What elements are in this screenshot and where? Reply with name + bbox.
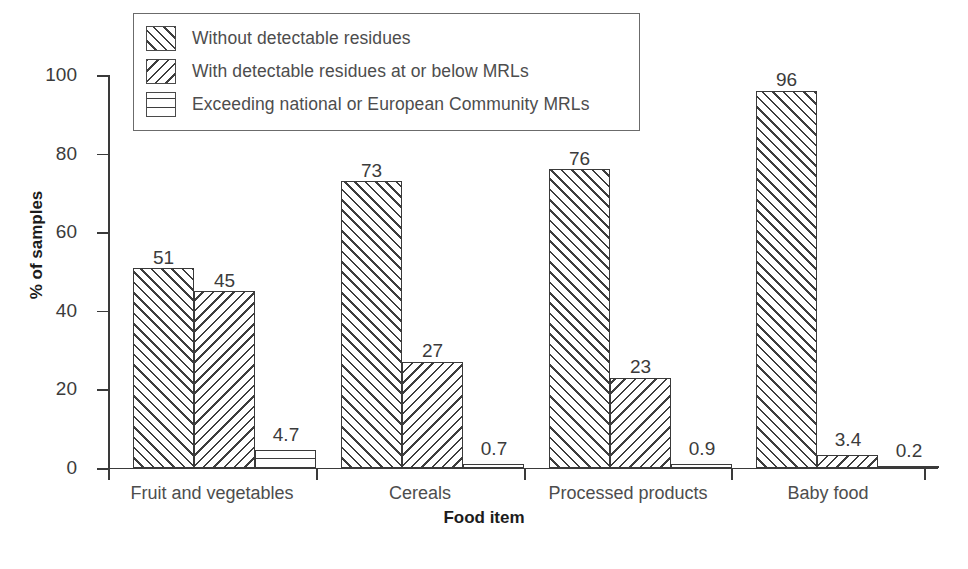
y-tick-mark	[97, 232, 108, 234]
x-axis-title: Food item	[0, 508, 968, 528]
legend-swatch-horizontal-icon	[146, 92, 176, 117]
bar-baby-food-at-or-below-mrls	[817, 455, 878, 468]
y-tick-label: 100	[33, 64, 77, 86]
x-tick-mark	[316, 468, 318, 480]
y-tick-label: 0	[33, 457, 77, 479]
bar-baby-food-exceeding-mrls	[878, 466, 939, 469]
legend-item-without-detectable-residues: Without detectable residues	[146, 22, 639, 55]
legend-item-exceeding-mrls: Exceeding national or European Community…	[146, 88, 639, 121]
plot-area: 51 45 4.7 73 27 0.7 76 23 0.9 96 3.4 0.2	[108, 75, 938, 468]
bar-cereals-without-detectable-residues	[341, 181, 402, 468]
y-tick-mark	[97, 389, 108, 391]
legend-swatch-diagonal-forward-icon	[146, 26, 176, 51]
bar-value-label: 0.9	[667, 438, 737, 460]
bar-value-label: 45	[194, 270, 255, 292]
bar-value-label: 76	[549, 148, 610, 170]
bar-value-label: 4.7	[251, 424, 321, 446]
x-category-label-processed-products: Processed products	[548, 483, 707, 504]
x-category-label-cereals: Cereals	[389, 483, 451, 504]
y-tick-label: 80	[33, 143, 77, 165]
bar-value-label: 73	[341, 160, 402, 182]
bar-baby-food-without-detectable-residues	[756, 91, 817, 468]
bar-chart: Without detectable residues With detecta…	[0, 0, 968, 569]
chart-legend: Without detectable residues With detecta…	[133, 13, 640, 131]
legend-label: With detectable residues at or below MRL…	[192, 61, 529, 82]
bar-value-label: 96	[756, 69, 817, 91]
x-tick-mark	[108, 468, 110, 480]
legend-label: Exceeding national or European Community…	[192, 94, 589, 115]
y-tick-label: 20	[33, 378, 77, 400]
legend-label: Without detectable residues	[192, 28, 411, 49]
y-tick-mark	[97, 154, 108, 156]
x-category-label-baby-food: Baby food	[787, 483, 868, 504]
bar-value-label: 23	[610, 356, 671, 378]
legend-swatch-diagonal-backward-icon	[146, 59, 176, 84]
bar-processed-products-exceeding-mrls	[671, 464, 732, 469]
x-category-label-fruit-and-vegetables: Fruit and vegetables	[130, 483, 293, 504]
bar-value-label: 27	[402, 340, 463, 362]
y-tick-label: 40	[33, 300, 77, 322]
bar-processed-products-without-detectable-residues	[549, 169, 610, 468]
x-tick-mark	[731, 468, 733, 480]
bar-fruit-and-vegetables-at-or-below-mrls	[194, 291, 255, 468]
bar-cereals-at-or-below-mrls	[402, 362, 463, 468]
bar-value-label: 3.4	[813, 429, 883, 451]
legend-item-at-or-below-mrls: With detectable residues at or below MRL…	[146, 55, 639, 88]
bar-cereals-exceeding-mrls	[463, 464, 524, 468]
bar-fruit-and-vegetables-without-detectable-residues	[133, 268, 194, 468]
bar-value-label: 51	[133, 247, 194, 269]
bar-processed-products-at-or-below-mrls	[610, 378, 671, 468]
bar-value-label: 0.2	[874, 440, 944, 462]
y-tick-mark	[97, 311, 108, 313]
y-axis-title: % of samples	[27, 170, 47, 320]
y-tick-mark	[97, 468, 108, 470]
x-tick-mark	[924, 468, 926, 480]
bar-fruit-and-vegetables-exceeding-mrls	[255, 450, 316, 469]
x-tick-mark	[524, 468, 526, 480]
y-tick-label: 60	[33, 221, 77, 243]
y-tick-mark	[97, 75, 108, 77]
bar-value-label: 0.7	[459, 438, 529, 460]
